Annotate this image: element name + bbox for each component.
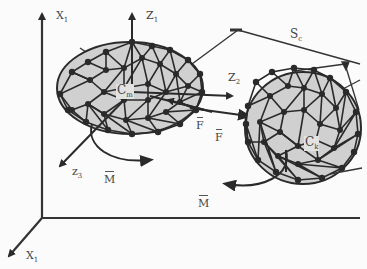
connector-sc-label: Sc bbox=[290, 28, 302, 43]
z1-axis-label: Z1 bbox=[146, 10, 158, 24]
moment-k-label: M bbox=[198, 198, 209, 209]
center-of-mass-m-label: Cm bbox=[116, 84, 134, 99]
moment-m-label: M bbox=[104, 174, 115, 185]
force-label-1: F bbox=[196, 120, 204, 131]
z2-axis-label: Z2 bbox=[228, 72, 240, 86]
force-label-2: F bbox=[215, 132, 223, 143]
body-k-mesh bbox=[243, 65, 361, 184]
x1-depth-axis-label: X1 bbox=[26, 250, 38, 264]
center-of-mass-k-label: Ck bbox=[304, 136, 319, 151]
diagram-canvas: X1 X1 Z1 Z2 z3 Cm Ck F F M M Sc bbox=[0, 0, 367, 269]
z3-axis-label: z3 bbox=[72, 166, 82, 180]
x1-vertical-axis-label: X1 bbox=[56, 10, 68, 24]
